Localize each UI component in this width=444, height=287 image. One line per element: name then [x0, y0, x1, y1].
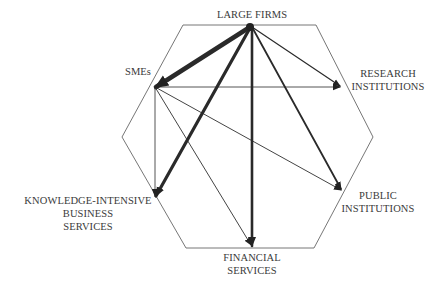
- node-label-line: PUBLIC: [335, 189, 421, 202]
- node-label-large-firms: LARGE FIRMS: [212, 8, 292, 21]
- edge-largefirms-research: [252, 27, 340, 86]
- large-firms-hub: [246, 23, 254, 31]
- node-label-line: INSTITUTIONS: [345, 80, 431, 93]
- node-label-line: LARGE FIRMS: [212, 8, 292, 21]
- node-label-line: RESEARCH: [345, 67, 431, 80]
- network-diagram: [0, 0, 444, 287]
- node-label-line: SMEs: [118, 65, 158, 78]
- edge-largefirms-public: [252, 27, 341, 189]
- node-label-line: SERVICES: [212, 264, 292, 277]
- node-label-line: BUSINESS: [18, 207, 158, 220]
- node-label-public-institutions: PUBLIC INSTITUTIONS: [335, 189, 421, 215]
- node-label-line: KNOWLEDGE-INTENSIVE: [18, 194, 158, 207]
- node-label-line: SERVICES: [18, 220, 158, 233]
- node-label-line: FINANCIAL: [212, 251, 292, 264]
- node-label-kibs: KNOWLEDGE-INTENSIVE BUSINESS SERVICES: [18, 194, 158, 233]
- edges: [155, 27, 341, 246]
- node-label-smes: SMEs: [118, 65, 158, 78]
- node-label-research-institutions: RESEARCH INSTITUTIONS: [345, 67, 431, 93]
- edge-largefirms-smes: [156, 27, 250, 87]
- node-label-line: INSTITUTIONS: [335, 202, 421, 215]
- node-label-financial-services: FINANCIAL SERVICES: [212, 251, 292, 277]
